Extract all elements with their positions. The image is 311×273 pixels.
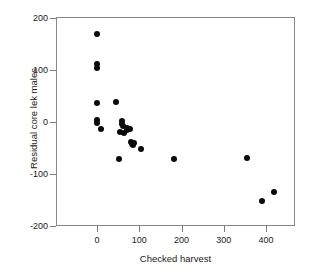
x-axis-tick-label: 100: [119, 236, 159, 245]
scatter-plot-figure: 2001000-100-200 0100200300400 Checked ha…: [0, 0, 311, 273]
y-axis-tick-label: -100: [4, 170, 48, 179]
x-axis-tick: [224, 226, 225, 232]
y-axis-tick-label: 0: [4, 118, 48, 127]
x-axis-tick-label: 300: [204, 236, 244, 245]
x-axis-tick: [182, 226, 183, 232]
y-axis-label: Residual core lek males: [28, 34, 39, 204]
plot-area-frame: [56, 17, 295, 226]
y-axis-tick: [50, 122, 56, 123]
y-axis-tick-label: 200: [4, 14, 48, 23]
x-axis-tick-label: 0: [77, 236, 117, 245]
x-axis-tick-label: 400: [246, 236, 286, 245]
x-axis-tick: [139, 226, 140, 232]
y-axis-tick: [50, 70, 56, 71]
y-axis-tick-label: -200: [4, 222, 48, 231]
x-axis-tick-label: 200: [162, 236, 202, 245]
y-axis-tick-label: 100: [4, 66, 48, 75]
x-axis-tick: [266, 226, 267, 232]
y-axis-tick: [50, 174, 56, 175]
x-axis-tick: [97, 226, 98, 232]
x-axis-label: Checked harvest: [56, 253, 295, 264]
y-axis-tick: [50, 18, 56, 19]
y-axis-tick: [50, 226, 56, 227]
